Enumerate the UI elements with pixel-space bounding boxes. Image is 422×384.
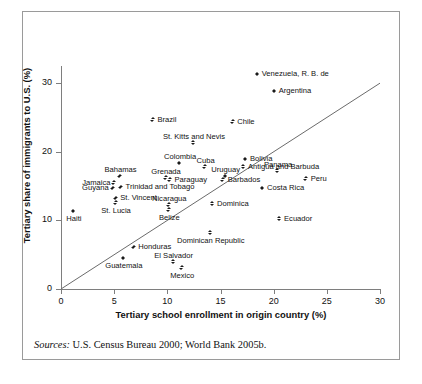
scatter-point[interactable]	[119, 185, 123, 187]
scatter-point[interactable]	[167, 207, 171, 209]
scatter-point[interactable]	[210, 201, 214, 203]
figure-frame	[22, 11, 400, 360]
x-tick-mark	[380, 289, 381, 294]
point-label: Mexico	[170, 271, 194, 280]
point-label: Venezuela, R. B. de	[262, 69, 329, 78]
point-label: Uruguay	[211, 165, 240, 174]
x-tick-mark	[274, 289, 275, 294]
scatter-point[interactable]	[71, 209, 75, 211]
scatter-point[interactable]	[272, 89, 276, 91]
y-tick-label: 0	[26, 283, 52, 293]
x-tick-label: 5	[99, 296, 129, 306]
y-axis-label: Tertiary share of immigrants to U.S. (%)	[21, 56, 32, 256]
scatter-point[interactable]	[114, 196, 118, 198]
point-label: Guatemala	[105, 261, 142, 270]
point-label: Trinidad and Tobago	[126, 182, 195, 191]
figure-container: Figure 3.7 Education Profile of Native P…	[0, 0, 422, 384]
x-tick-label: 25	[312, 296, 342, 306]
point-label: Panama	[264, 160, 292, 169]
y-axis-line	[61, 66, 62, 290]
point-label: Haiti	[66, 214, 81, 223]
x-tick-label: 20	[259, 296, 289, 306]
scatter-point[interactable]	[168, 177, 172, 179]
x-tick-label: 30	[365, 296, 395, 306]
point-label: Dominica	[217, 199, 249, 208]
scatter-point[interactable]	[243, 157, 247, 159]
scatter-point[interactable]	[208, 230, 212, 232]
point-label: Costa Rica	[267, 183, 304, 192]
sources-note: Sources: U.S. Census Bureau 2000; World …	[34, 339, 394, 350]
scatter-point[interactable]	[180, 265, 184, 267]
scatter-point[interactable]	[111, 186, 115, 188]
scatter-point[interactable]	[231, 119, 235, 121]
point-label: Ecuador	[284, 214, 312, 223]
point-label: St. Kitts and Nevis	[163, 132, 225, 141]
point-label: El Salvador	[154, 251, 193, 260]
x-tick-label: 15	[206, 296, 236, 306]
point-label: Peru	[311, 174, 327, 183]
y-tick-mark	[56, 152, 61, 153]
scatter-point[interactable]	[221, 177, 225, 179]
scatter-point[interactable]	[114, 200, 118, 202]
point-label: Dominican Republic	[177, 236, 245, 245]
x-tick-label: 0	[46, 296, 76, 306]
point-label: St. Lucia	[101, 206, 131, 215]
y-tick-mark	[56, 220, 61, 221]
point-label: Barbados	[228, 175, 261, 184]
point-label: Cuba	[197, 156, 215, 165]
scatter-point[interactable]	[112, 180, 116, 182]
x-tick-mark	[114, 289, 115, 294]
sources-label: Sources:	[34, 339, 70, 350]
point-label: Belize	[159, 213, 180, 222]
x-tick-label: 10	[152, 296, 182, 306]
x-tick-mark	[221, 289, 222, 294]
point-label: Guyana	[82, 183, 109, 192]
point-label: Chile	[237, 117, 254, 126]
scatter-point[interactable]	[132, 245, 136, 247]
point-label: Nicaragua	[152, 194, 187, 203]
sources-text: U.S. Census Bureau 2000; World Bank 2005…	[73, 339, 267, 350]
point-label: Bahamas	[105, 165, 137, 174]
point-label: Colombia	[164, 152, 196, 161]
scatter-point[interactable]	[277, 216, 281, 218]
scatter-point[interactable]	[255, 72, 259, 74]
x-tick-mark	[61, 289, 62, 294]
x-axis-label: Tertiary school enrollment in origin cou…	[61, 309, 381, 320]
scatter-point[interactable]	[151, 117, 155, 119]
scatter-point[interactable]	[121, 256, 125, 258]
point-label: Argentina	[279, 86, 312, 95]
y-tick-mark	[56, 83, 61, 84]
x-tick-mark	[327, 289, 328, 294]
point-label: Brazil	[158, 115, 177, 124]
x-tick-mark	[167, 289, 168, 294]
scatter-point[interactable]	[241, 164, 245, 166]
scatter-point[interactable]	[260, 186, 264, 188]
scatter-point[interactable]	[304, 176, 308, 178]
